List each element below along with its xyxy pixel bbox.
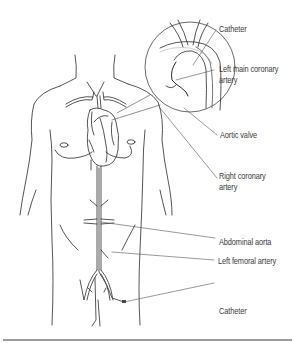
neck-outline bbox=[60, 55, 128, 96]
label-left-main-coronary-artery-line2: artery bbox=[219, 75, 237, 85]
catheter-femoral bbox=[99, 168, 124, 302]
iliac-arteries bbox=[80, 270, 113, 300]
bottom-divider bbox=[3, 339, 292, 341]
heart bbox=[87, 108, 118, 170]
label-left-femoral-artery: Left femoral artery bbox=[218, 256, 276, 266]
inset-connector bbox=[112, 95, 160, 120]
label-left-main-coronary-artery-line1: Left main coronary bbox=[219, 64, 278, 74]
label-aortic-valve: Aortic valve bbox=[220, 130, 257, 140]
aortic-arch bbox=[66, 92, 126, 108]
label-abdominal-aorta: Abdominal aorta bbox=[219, 237, 271, 247]
label-catheter-bottom: Catheter bbox=[219, 306, 247, 316]
label-right-coronary-artery-line1: Right coronary bbox=[219, 171, 266, 181]
label-catheter-top: Catheter bbox=[219, 24, 247, 34]
leader-lines bbox=[101, 30, 217, 302]
label-right-coronary-artery-line2: artery bbox=[219, 182, 237, 192]
